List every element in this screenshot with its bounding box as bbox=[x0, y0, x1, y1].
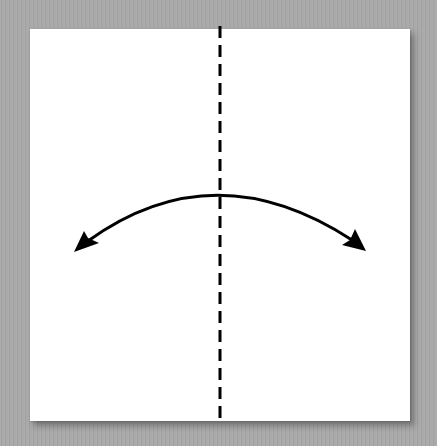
diagram-canvas bbox=[0, 0, 437, 446]
arrowhead-right-icon bbox=[342, 229, 366, 251]
fold-annotations bbox=[0, 0, 437, 446]
